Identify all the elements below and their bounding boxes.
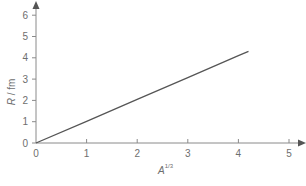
y-tick-label: 5	[22, 31, 28, 42]
y-tick-label: 1	[22, 116, 28, 127]
x-ticks: 012345	[33, 139, 292, 159]
x-tick-label: 3	[185, 148, 191, 159]
y-tick-label: 3	[22, 74, 28, 85]
y-tick-label: 4	[22, 52, 28, 63]
y-tick-label: 2	[22, 95, 28, 106]
x-tick-label: 0	[33, 148, 39, 159]
y-tick-label: 0	[22, 138, 28, 149]
data-line	[36, 51, 249, 143]
x-axis-label: A1/3	[157, 163, 174, 176]
chart: 012345 0123456 R / fm A1/3	[0, 0, 306, 186]
y-axis-arrow-icon	[33, 1, 40, 9]
x-tick-label: 4	[236, 148, 242, 159]
x-tick-label: 2	[134, 148, 140, 159]
y-tick-label: 6	[22, 10, 28, 21]
x-axis-arrow-icon	[298, 140, 306, 147]
x-tick-label: 1	[84, 148, 90, 159]
y-axis-label: R / fm	[6, 79, 17, 106]
y-ticks: 0123456	[22, 10, 36, 149]
x-tick-label: 5	[286, 148, 292, 159]
